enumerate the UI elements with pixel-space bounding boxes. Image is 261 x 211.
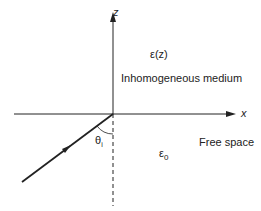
x-axis-arrowhead-icon (226, 111, 236, 117)
z-axis-label: z (113, 6, 119, 18)
epsilon-subscript: 0 (164, 153, 168, 162)
angle-arc (97, 126, 113, 134)
lower-permittivity-label: ε0 (159, 147, 168, 162)
diagram-canvas: z x ε(z) Inhomogeneous medium ε0 Free sp… (0, 0, 261, 211)
upper-region-name: Inhomogeneous medium (121, 72, 242, 84)
x-axis-label: x (241, 107, 247, 119)
theta-subscript: i (101, 141, 103, 148)
incidence-angle-label: θi (95, 134, 103, 148)
lower-region-name: Free space (199, 136, 254, 148)
diagram-lines (0, 0, 261, 211)
upper-permittivity-label: ε(z) (150, 48, 168, 60)
